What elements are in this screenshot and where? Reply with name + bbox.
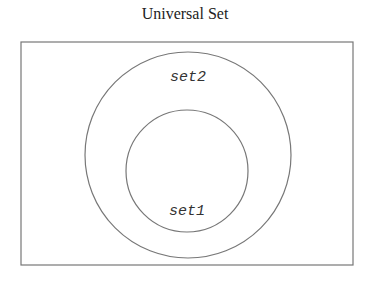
set1-label: set1 [169, 203, 205, 220]
set2-label: set2 [170, 69, 206, 86]
venn-diagram: set2 set1 [0, 0, 370, 282]
